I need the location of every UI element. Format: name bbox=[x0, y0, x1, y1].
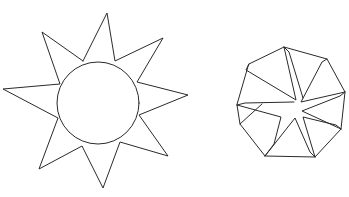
flap-top-left bbox=[246, 47, 296, 100]
drawing-canvas bbox=[0, 0, 349, 197]
folded-octagon-drawing bbox=[237, 47, 345, 157]
sun-circle bbox=[57, 62, 139, 144]
flap-right bbox=[302, 92, 345, 129]
sun-rays bbox=[3, 13, 188, 188]
flap-lower-right bbox=[303, 117, 341, 157]
flap-left bbox=[237, 102, 294, 105]
flap-bottom bbox=[265, 118, 315, 157]
sun-drawing bbox=[3, 13, 188, 188]
